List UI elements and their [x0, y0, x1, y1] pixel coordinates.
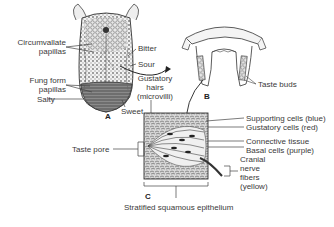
label-salty: Salty — [37, 95, 55, 104]
label-basal-cells: Basal cells (purple) — [246, 146, 314, 155]
label-supporting-cells: Supporting cells (blue) — [246, 114, 326, 123]
label-cranial-nerve-line4: (yellow) — [240, 182, 268, 191]
label-fungiform-line1: Fung form — [10, 76, 66, 85]
label-sour: Sour — [138, 60, 155, 69]
label-fungiform-line2: papillas — [10, 85, 66, 94]
label-stratified-epithelium: Stratified squamous epithelium — [124, 203, 233, 212]
label-gustatory-hairs-line2: hairs — [132, 83, 178, 92]
label-gustatory-hairs-line1: Gustatory — [132, 74, 178, 83]
taste-bud-illustration — [144, 113, 222, 179]
label-bitter: Bitter — [138, 44, 157, 53]
label-circumvallate-line1: Circumvallate — [10, 38, 66, 47]
panel-label-c: C — [145, 192, 151, 201]
label-cranial-nerve-line1: Cranial — [240, 155, 265, 164]
label-circumvallate-line2: papillas — [10, 47, 66, 56]
label-cranial-nerve-line2: nerve — [240, 164, 260, 173]
label-taste-pore: Taste pore — [72, 145, 109, 154]
label-sweet: Sweet — [121, 107, 143, 116]
papilla-illustration — [182, 27, 266, 86]
label-gustatory-cells: Gustatory cells (red) — [246, 123, 318, 132]
label-connective-tissue: Connective tissue — [246, 137, 309, 146]
label-cranial-nerve-line3: fibers — [240, 173, 260, 182]
panel-label-a: A — [105, 112, 111, 121]
tongue-illustration — [73, 4, 138, 112]
label-taste-buds: Taste buds — [258, 80, 297, 89]
label-gustatory-hairs-line3: (microvilli) — [130, 92, 180, 101]
panel-label-b: B — [204, 92, 210, 101]
